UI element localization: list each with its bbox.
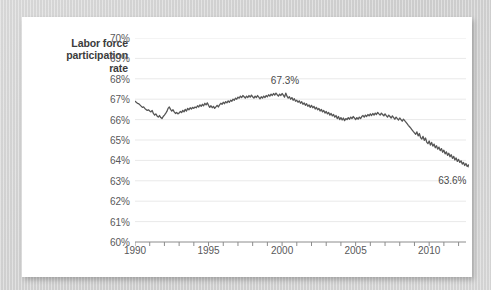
x-axis-tick-label: 1990 (124, 245, 146, 256)
x-axis-tick-label: 1995 (197, 245, 219, 256)
y-axis-tick-label: 70% (96, 33, 130, 44)
y-axis-labels: 70%69%68%67%66%65%64%63%62%61%60% (96, 17, 130, 277)
y-axis-tick-label: 65% (96, 135, 130, 146)
data-series-line (135, 93, 469, 168)
y-axis-tick-label: 66% (96, 114, 130, 125)
x-axis-tick-label: 2000 (271, 245, 293, 256)
y-axis-tick-label: 67% (96, 94, 130, 105)
y-axis-tick-label: 64% (96, 155, 130, 166)
chart-svg (135, 38, 469, 258)
y-axis-tick-label: 63% (96, 175, 130, 186)
y-axis-tick-label: 69% (96, 53, 130, 64)
x-axis-tick-label: 2010 (418, 245, 440, 256)
x-axis-labels: 19901995200020052010 (135, 245, 463, 261)
chart-card: Labor forceparticipationrate 70%69%68%67… (22, 17, 472, 277)
x-axis-tick-label: 2005 (345, 245, 367, 256)
line-chart: Labor forceparticipationrate 70%69%68%67… (22, 17, 472, 277)
plot-area: 67.3%63.6% (135, 38, 463, 242)
y-axis-tick-label: 62% (96, 196, 130, 207)
data-point-annotation: 67.3% (271, 75, 299, 86)
data-point-annotation: 63.6% (438, 175, 466, 186)
y-axis-tick-label: 61% (96, 216, 130, 227)
y-axis-tick-label: 68% (96, 73, 130, 84)
